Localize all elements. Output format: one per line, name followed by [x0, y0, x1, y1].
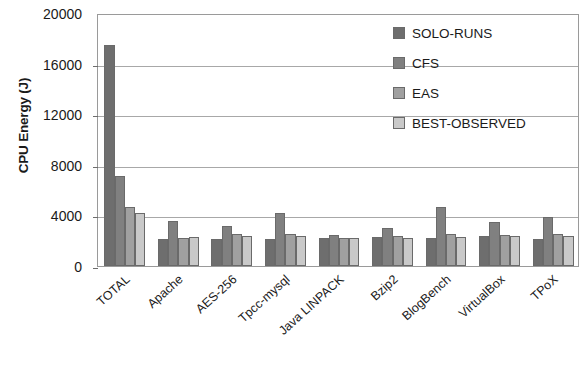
x-axis-tick-label: AES-256: [142, 273, 240, 363]
bar: [349, 238, 359, 266]
chart-legend: SOLO-RUNSCFSEASBEST-OBSERVED: [393, 18, 583, 138]
bar: [372, 237, 382, 266]
bar: [296, 236, 306, 266]
x-axis-tick-label: Java LINPACK: [249, 273, 347, 363]
bar: [125, 207, 135, 266]
bar-group: [205, 15, 259, 266]
bar: [510, 236, 520, 266]
bar: [393, 236, 403, 266]
y-axis-tick-label: 8000: [51, 159, 82, 173]
bar: [232, 234, 242, 266]
legend-swatch-icon: [393, 117, 405, 129]
bar: [382, 228, 392, 266]
bar-group: [259, 15, 313, 266]
legend-item: BEST-OBSERVED: [393, 108, 583, 138]
x-axis-tick-label: TPoX: [463, 273, 561, 363]
legend-swatch-icon: [393, 27, 405, 39]
bar: [168, 221, 178, 266]
y-axis-tick-label: 0: [74, 260, 82, 274]
y-axis-tick-label: 12000: [43, 108, 82, 122]
bar: [339, 238, 349, 266]
bar: [158, 239, 168, 266]
x-axis-tick-label: Apache: [88, 273, 186, 363]
bar: [436, 207, 446, 266]
bar: [265, 239, 275, 266]
bar: [319, 238, 329, 266]
y-axis-tick: [93, 268, 98, 269]
legend-item: CFS: [393, 48, 583, 78]
x-axis-tick-label: VirtualBox: [409, 273, 507, 363]
bar: [222, 226, 232, 266]
bar: [489, 222, 499, 266]
bar-group: [152, 15, 206, 266]
y-axis-tick-labels: 040008000120001600020000: [8, 0, 88, 290]
y-axis-tick-label: 16000: [43, 58, 82, 72]
bar: [285, 234, 295, 266]
bar: [242, 236, 252, 266]
bar: [456, 237, 466, 266]
bar: [178, 238, 188, 266]
legend-swatch-icon: [393, 57, 405, 69]
x-axis-tick-label: Tpcc-mysql: [195, 273, 293, 363]
bar-group: [312, 15, 366, 266]
bar-chart: CPU Energy (J) 040008000120001600020000 …: [0, 0, 586, 368]
bar: [115, 176, 125, 266]
legend-label: SOLO-RUNS: [412, 26, 492, 41]
bar: [275, 213, 285, 266]
bar: [135, 213, 145, 266]
bar: [500, 235, 510, 266]
x-axis-tick-label: Bzip2: [302, 273, 400, 363]
bar: [533, 239, 543, 266]
legend-item: SOLO-RUNS: [393, 18, 583, 48]
legend-item: EAS: [393, 78, 583, 108]
bar: [479, 236, 489, 266]
bar: [104, 45, 114, 266]
legend-label: EAS: [412, 86, 439, 101]
bar: [426, 238, 436, 266]
bar: [543, 217, 553, 266]
bar: [446, 234, 456, 266]
legend-swatch-icon: [393, 87, 405, 99]
bar: [403, 238, 413, 266]
y-axis-tick-label: 4000: [51, 209, 82, 223]
legend-label: CFS: [412, 56, 439, 71]
y-axis-tick-label: 20000: [43, 7, 82, 21]
bar: [553, 234, 563, 266]
legend-label: BEST-OBSERVED: [412, 116, 526, 131]
bar-group: [98, 15, 152, 266]
bar: [189, 237, 199, 266]
bar: [563, 236, 573, 266]
x-axis-tick-label: BlogBench: [356, 273, 454, 363]
bar: [329, 235, 339, 266]
bar: [211, 239, 221, 266]
